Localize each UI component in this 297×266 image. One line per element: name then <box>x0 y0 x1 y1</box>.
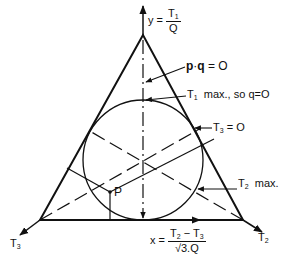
t2max-label: T2 max. <box>238 178 279 190</box>
pq-rest: = O <box>208 59 228 73</box>
ternary-diagram <box>0 0 297 266</box>
t1max-leader <box>146 96 186 100</box>
vertex-t3-sub: 3 <box>17 243 21 250</box>
point-p <box>108 190 112 194</box>
vertex-t2-sub: 2 <box>265 237 269 244</box>
p-to-left-side <box>67 168 110 192</box>
pq-leader <box>146 67 185 82</box>
y-fraction: T1 Q <box>166 8 181 34</box>
t2max-t: T <box>238 177 245 189</box>
t1max-t: T <box>187 88 194 100</box>
vertex-t2-t: T <box>258 231 265 243</box>
x-num-a-sub: 2 <box>177 233 181 240</box>
y-den: Q <box>169 22 178 34</box>
x-den: √3.Q <box>175 242 199 254</box>
x-fraction: T2 − T3 √3.Q <box>168 228 206 254</box>
t1max-rest: max., so q=O <box>204 88 270 100</box>
t3-vertex-arrow <box>20 220 40 235</box>
dashed-median-left <box>40 128 201 220</box>
t2max-rest: max. <box>255 177 279 189</box>
vertex-t3-t: T <box>10 237 17 249</box>
x-num-a: T <box>170 227 177 239</box>
x-num-b-sub: 3 <box>200 233 204 240</box>
t1max-label: T1 max., so q=O <box>187 89 270 101</box>
y-num-sub: 1 <box>175 13 179 20</box>
t3zero-sub: 3 <box>220 127 224 134</box>
t3zero-t: T <box>213 121 220 133</box>
point-p-label: P <box>114 186 122 198</box>
vertex-t2-label: T2 <box>258 232 269 244</box>
pq-q: q <box>197 59 204 73</box>
t1max-sub: 1 <box>194 94 198 101</box>
t3zero-rest: = O <box>227 121 245 133</box>
vertex-t3-label: T3 <box>10 238 21 250</box>
y-num: T <box>168 7 175 19</box>
x-axis-label: x = T2 − T3 √3.Q <box>150 228 206 254</box>
t2max-sub: 2 <box>245 183 249 190</box>
x-prefix: x = <box>150 234 165 246</box>
pq-label: p·q = O <box>186 60 228 72</box>
y-prefix: y = <box>148 14 163 26</box>
x-num-b: T <box>193 227 200 239</box>
t3zero-label: T3 = O <box>213 122 245 134</box>
x-minus: − <box>184 227 190 239</box>
y-axis-label: y = T1 Q <box>148 8 181 34</box>
